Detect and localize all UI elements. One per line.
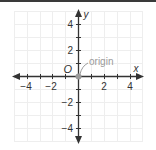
origin-letter: O <box>63 63 72 75</box>
x-tick-label: 4 <box>127 81 133 92</box>
x-tick-label: 2 <box>101 81 107 92</box>
y-tick-label: 2 <box>67 45 73 56</box>
y-axis-up-arrow-icon <box>75 9 82 17</box>
x-tick-label: −4 <box>20 81 32 92</box>
x-axis-left-arrow-icon <box>12 73 20 80</box>
origin-point <box>76 74 82 80</box>
x-tick-label: −2 <box>45 81 57 92</box>
y-tick-label: −4 <box>62 123 74 134</box>
origin-annotation: origin <box>89 56 113 67</box>
x-axis-label: x <box>133 63 140 74</box>
y-tick-label: 4 <box>67 19 73 30</box>
y-axis-down-arrow-icon <box>75 136 82 144</box>
origin-leader-line <box>80 63 88 74</box>
coordinate-plane: −4 −2 2 4 x 4 2 −2 −4 y O origin <box>0 0 156 150</box>
y-axis-label: y <box>83 9 90 20</box>
y-tick-label: −2 <box>62 97 74 108</box>
